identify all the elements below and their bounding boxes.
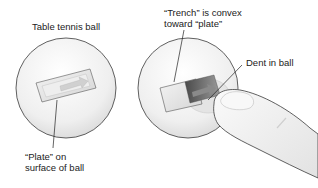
fingernail [221,92,254,110]
trench-label-line2: toward “plate” [164,18,222,29]
dent-in-ball-label: Dent in ball [246,57,294,68]
plate-label-line1: “Plate” on [25,151,66,162]
plate-label-line2: surface of ball [25,162,84,173]
left-ball [16,38,116,148]
finger [214,90,318,178]
table-tennis-ball-label: Table tennis ball [32,21,100,32]
trench-label-line1: “Trench” is convex [164,7,242,18]
